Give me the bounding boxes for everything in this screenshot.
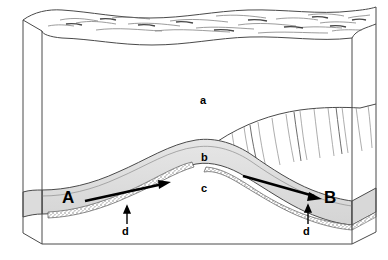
label-d-right: d — [303, 226, 310, 237]
label-point-b: B — [324, 189, 336, 206]
top-land-surface — [23, 7, 376, 45]
label-d-left: d — [122, 226, 129, 237]
label-b: b — [201, 152, 208, 163]
block-diagram-svg — [0, 0, 388, 260]
label-c: c — [201, 183, 207, 194]
label-point-a: A — [62, 189, 74, 206]
label-a: a — [200, 95, 206, 106]
block-diagram-figure: a b c d d A B — [0, 0, 388, 260]
